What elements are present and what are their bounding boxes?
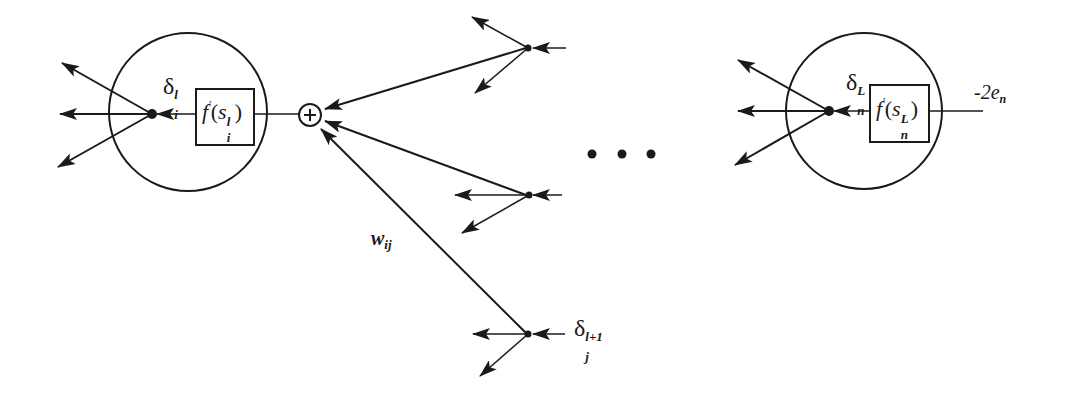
- derivative-output-label: f′(sLn): [876, 98, 918, 120]
- weighted-edge-middle: [325, 121, 526, 195]
- next-layer-node-top: [472, 17, 566, 93]
- weighted-edge-top: [325, 48, 526, 109]
- delta-subscript: i: [174, 108, 178, 121]
- delta-superscript: l: [174, 88, 178, 101]
- backprop-arrow-down: [58, 114, 152, 167]
- weighted-edge-wij: [321, 129, 526, 333]
- arg-subscript: n: [901, 128, 908, 141]
- error-input-label: -2en: [974, 82, 1006, 105]
- branch-arrow-down: [480, 334, 528, 376]
- delta-symbol: δ: [574, 315, 585, 341]
- arg-symbol: s: [892, 96, 901, 121]
- hidden-neuron: [58, 33, 298, 191]
- backprop-arrow-up: [62, 63, 152, 114]
- ellipsis-dot: [618, 150, 627, 159]
- weight-symbol: w: [371, 227, 384, 249]
- ellipsis: [588, 150, 656, 159]
- branch-arrow-down: [462, 195, 529, 233]
- delta-hidden-label: δli: [163, 74, 174, 98]
- weight-subscript: ij: [384, 237, 391, 252]
- arg-symbol: s: [218, 99, 227, 124]
- branch-arrow-up: [472, 17, 528, 48]
- delta-subscript: n: [857, 104, 864, 117]
- prime-symbol: ′: [208, 98, 211, 112]
- delta-subscript: j: [585, 350, 589, 363]
- arg-subscript: i: [227, 131, 231, 144]
- weight-label: wij: [371, 228, 392, 251]
- delta-next-layer-label: δl+1j: [574, 316, 585, 340]
- backprop-diagram: [0, 0, 1065, 400]
- ellipsis-dot: [588, 150, 597, 159]
- error-subscript: n: [1000, 92, 1007, 106]
- backprop-arrow-down: [735, 111, 829, 165]
- next-layer-node-middle: [455, 192, 562, 234]
- ellipsis-dot: [647, 150, 656, 159]
- delta-symbol: δ: [846, 69, 857, 95]
- delta-symbol: δ: [163, 73, 174, 99]
- arg-superscript: L: [901, 112, 909, 125]
- backprop-arrow-up: [738, 60, 829, 111]
- delta-superscript: L: [857, 84, 865, 97]
- summing-junction: [299, 104, 321, 126]
- delta-superscript: l+1: [585, 330, 603, 343]
- next-layer-node-bottom: [473, 331, 565, 377]
- delta-output-label: δLn: [846, 70, 857, 94]
- arg-superscript: l: [227, 115, 231, 128]
- prime-symbol: ′: [882, 95, 885, 109]
- derivative-hidden-label: f′(sli): [202, 101, 242, 123]
- error-symbol: -2e: [974, 81, 1000, 103]
